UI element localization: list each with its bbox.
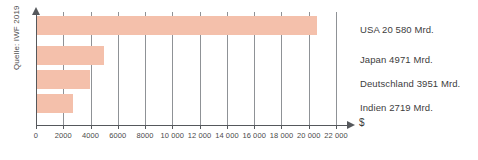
bar bbox=[36, 46, 104, 65]
x-axis-tick-label: 20 000 bbox=[297, 131, 321, 140]
bar bbox=[36, 94, 73, 113]
y-axis-line bbox=[36, 14, 37, 125]
x-axis-tick bbox=[254, 125, 255, 129]
series-label: Indien 2719 Mrd. bbox=[360, 102, 433, 113]
bar bbox=[36, 70, 90, 89]
series-label: Deutschland 3951 Mrd. bbox=[360, 78, 460, 89]
x-axis-tick-label: 22 000 bbox=[324, 131, 348, 140]
x-axis-tick bbox=[227, 125, 228, 129]
x-axis-tick-label: 8000 bbox=[137, 131, 154, 140]
x-axis-tick bbox=[336, 125, 337, 129]
x-axis-tick-label: 14 000 bbox=[215, 131, 239, 140]
x-axis-tick bbox=[281, 125, 282, 129]
x-axis-tick bbox=[200, 125, 201, 129]
x-axis-tick bbox=[309, 125, 310, 129]
x-axis-arrow-icon bbox=[347, 121, 355, 129]
series-label: USA 20 580 Mrd. bbox=[360, 24, 434, 35]
bar bbox=[36, 16, 317, 35]
gridline bbox=[336, 12, 337, 125]
x-axis-tick bbox=[91, 125, 92, 129]
source-note: Quelle: IWF 2019 bbox=[10, 0, 24, 70]
x-axis-tick-label: 18 000 bbox=[270, 131, 294, 140]
y-axis-arrow-icon bbox=[32, 7, 40, 15]
x-axis-tick-label: 16 000 bbox=[242, 131, 266, 140]
plot-area bbox=[36, 12, 336, 125]
x-axis-tick-label: 6000 bbox=[109, 131, 126, 140]
x-axis-tick-label: 10 000 bbox=[161, 131, 185, 140]
bar-chart: Quelle: IWF 2019 $ 0200040006000800010 0… bbox=[0, 0, 478, 160]
x-axis-line bbox=[36, 125, 348, 126]
x-axis-tick bbox=[118, 125, 119, 129]
x-axis-tick bbox=[63, 125, 64, 129]
x-axis-tick bbox=[36, 125, 37, 129]
x-axis-tick bbox=[172, 125, 173, 129]
series-label: Japan 4971 Mrd. bbox=[360, 54, 433, 65]
x-axis-tick-label: 4000 bbox=[82, 131, 99, 140]
x-axis-tick-label: 2000 bbox=[55, 131, 72, 140]
x-axis-tick bbox=[145, 125, 146, 129]
x-axis-tick-label: 0 bbox=[34, 131, 38, 140]
x-axis-tick-label: 12 000 bbox=[188, 131, 212, 140]
x-axis-unit-label: $ bbox=[359, 117, 365, 128]
